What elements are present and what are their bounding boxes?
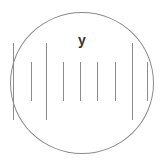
ruler-tick-short (31, 62, 32, 101)
ruler-tick-short (63, 62, 64, 101)
ruler-tick-long (46, 43, 47, 120)
ruler-tick-long (13, 43, 14, 120)
ruler-tick-long (132, 43, 133, 120)
ruler-tick-short (115, 62, 116, 101)
ruler-tick-short (80, 62, 81, 101)
ruler-tick-short (147, 62, 148, 101)
ruler-tick-short (97, 62, 98, 101)
ruler-label: y (78, 33, 86, 47)
